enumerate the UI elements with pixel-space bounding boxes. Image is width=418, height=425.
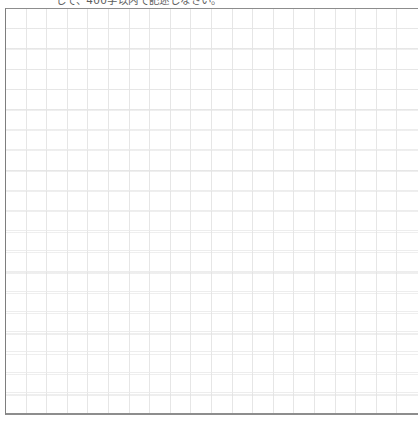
- manuscript-cell[interactable]: [274, 110, 295, 130]
- manuscript-cell[interactable]: [130, 171, 151, 191]
- manuscript-cell[interactable]: [130, 231, 151, 251]
- manuscript-cell[interactable]: [253, 150, 274, 170]
- manuscript-cell[interactable]: [27, 9, 48, 29]
- manuscript-cell[interactable]: [356, 292, 377, 312]
- manuscript-cell[interactable]: [88, 231, 109, 251]
- manuscript-cell[interactable]: [130, 272, 151, 292]
- manuscript-cell[interactable]: [377, 191, 398, 211]
- manuscript-cell[interactable]: [109, 191, 130, 211]
- manuscript-cell[interactable]: [397, 272, 418, 292]
- manuscript-cell[interactable]: [233, 110, 254, 130]
- manuscript-cell[interactable]: [191, 393, 212, 413]
- manuscript-cell[interactable]: [397, 312, 418, 332]
- manuscript-cell[interactable]: [253, 231, 274, 251]
- manuscript-cell[interactable]: [68, 312, 89, 332]
- manuscript-cell[interactable]: [336, 231, 357, 251]
- manuscript-cell[interactable]: [6, 70, 27, 90]
- manuscript-cell[interactable]: [27, 90, 48, 110]
- manuscript-cell[interactable]: [47, 352, 68, 372]
- manuscript-cell[interactable]: [397, 211, 418, 231]
- manuscript-cell[interactable]: [6, 130, 27, 150]
- manuscript-cell[interactable]: [253, 90, 274, 110]
- manuscript-cell[interactable]: [336, 130, 357, 150]
- manuscript-cell[interactable]: [294, 150, 315, 170]
- manuscript-cell[interactable]: [233, 272, 254, 292]
- manuscript-cell[interactable]: [130, 373, 151, 393]
- manuscript-cell[interactable]: [315, 49, 336, 69]
- manuscript-cell[interactable]: [109, 231, 130, 251]
- manuscript-cell[interactable]: [397, 49, 418, 69]
- manuscript-cell[interactable]: [47, 49, 68, 69]
- manuscript-cell[interactable]: [377, 9, 398, 29]
- manuscript-cell[interactable]: [233, 332, 254, 352]
- manuscript-cell[interactable]: [212, 70, 233, 90]
- manuscript-cell[interactable]: [212, 272, 233, 292]
- manuscript-cell[interactable]: [27, 292, 48, 312]
- manuscript-cell[interactable]: [88, 150, 109, 170]
- manuscript-cell[interactable]: [294, 211, 315, 231]
- manuscript-cell[interactable]: [150, 191, 171, 211]
- manuscript-cell[interactable]: [6, 292, 27, 312]
- manuscript-cell[interactable]: [68, 130, 89, 150]
- manuscript-cell[interactable]: [253, 251, 274, 271]
- manuscript-cell[interactable]: [171, 332, 192, 352]
- manuscript-cell[interactable]: [68, 191, 89, 211]
- manuscript-cell[interactable]: [109, 70, 130, 90]
- manuscript-cell[interactable]: [68, 352, 89, 372]
- manuscript-cell[interactable]: [27, 171, 48, 191]
- manuscript-cell[interactable]: [212, 130, 233, 150]
- manuscript-cell[interactable]: [171, 272, 192, 292]
- manuscript-cell[interactable]: [356, 9, 377, 29]
- manuscript-cell[interactable]: [274, 251, 295, 271]
- manuscript-cell[interactable]: [336, 393, 357, 413]
- manuscript-cell[interactable]: [336, 9, 357, 29]
- manuscript-cell[interactable]: [47, 29, 68, 49]
- manuscript-cell[interactable]: [6, 9, 27, 29]
- manuscript-cell[interactable]: [130, 332, 151, 352]
- manuscript-cell[interactable]: [294, 231, 315, 251]
- manuscript-cell[interactable]: [6, 110, 27, 130]
- manuscript-cell[interactable]: [171, 9, 192, 29]
- manuscript-cell[interactable]: [294, 171, 315, 191]
- manuscript-cell[interactable]: [294, 110, 315, 130]
- manuscript-cell[interactable]: [336, 150, 357, 170]
- manuscript-cell[interactable]: [150, 393, 171, 413]
- manuscript-cell[interactable]: [47, 191, 68, 211]
- manuscript-cell[interactable]: [212, 393, 233, 413]
- manuscript-cell[interactable]: [397, 191, 418, 211]
- manuscript-cell[interactable]: [336, 70, 357, 90]
- manuscript-cell[interactable]: [191, 130, 212, 150]
- manuscript-cell[interactable]: [233, 90, 254, 110]
- manuscript-cell[interactable]: [109, 171, 130, 191]
- manuscript-cell[interactable]: [191, 49, 212, 69]
- manuscript-cell[interactable]: [130, 292, 151, 312]
- manuscript-cell[interactable]: [47, 312, 68, 332]
- manuscript-cell[interactable]: [27, 29, 48, 49]
- manuscript-cell[interactable]: [212, 191, 233, 211]
- manuscript-cell[interactable]: [88, 191, 109, 211]
- manuscript-cell[interactable]: [191, 211, 212, 231]
- manuscript-cell[interactable]: [397, 393, 418, 413]
- manuscript-cell[interactable]: [274, 332, 295, 352]
- manuscript-cell[interactable]: [274, 70, 295, 90]
- manuscript-cell[interactable]: [336, 171, 357, 191]
- manuscript-cell[interactable]: [212, 171, 233, 191]
- manuscript-cell[interactable]: [191, 171, 212, 191]
- manuscript-cell[interactable]: [274, 49, 295, 69]
- manuscript-cell[interactable]: [336, 90, 357, 110]
- manuscript-cell[interactable]: [27, 150, 48, 170]
- manuscript-cell[interactable]: [212, 150, 233, 170]
- manuscript-cell[interactable]: [6, 211, 27, 231]
- manuscript-cell[interactable]: [130, 70, 151, 90]
- manuscript-cell[interactable]: [253, 332, 274, 352]
- manuscript-cell[interactable]: [88, 352, 109, 372]
- manuscript-cell[interactable]: [377, 393, 398, 413]
- manuscript-cell[interactable]: [233, 393, 254, 413]
- manuscript-cell[interactable]: [88, 292, 109, 312]
- manuscript-cell[interactable]: [6, 251, 27, 271]
- manuscript-cell[interactable]: [336, 110, 357, 130]
- manuscript-cell[interactable]: [130, 312, 151, 332]
- manuscript-cell[interactable]: [130, 130, 151, 150]
- manuscript-cell[interactable]: [377, 150, 398, 170]
- manuscript-cell[interactable]: [27, 110, 48, 130]
